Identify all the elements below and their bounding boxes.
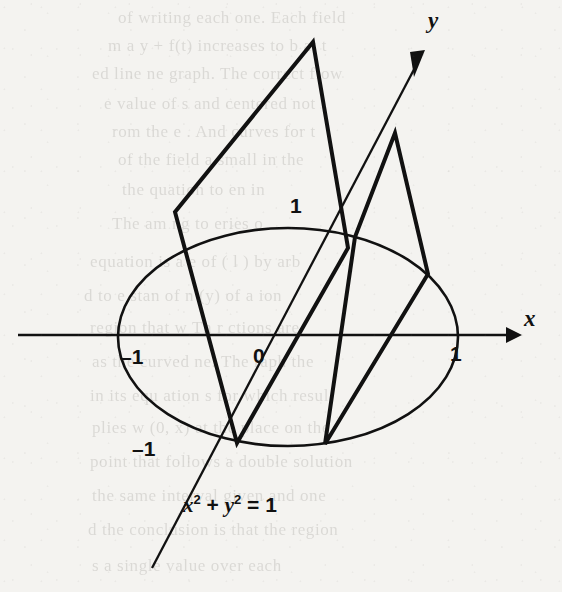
y-tick-positive-one-label: 1 [290, 194, 302, 218]
x-axis-label: x [524, 306, 536, 332]
origin-label: 0 [253, 344, 265, 368]
surface-patch-right [325, 133, 428, 444]
curve-equation-label: x2 + y2 = 1 [183, 492, 277, 518]
diagram-canvas [0, 0, 562, 592]
y-axis-label: y [428, 8, 438, 34]
x-tick-positive-one-label: 1 [450, 342, 462, 366]
figure-root: of writing each one. Each fieldm a y + f… [0, 0, 562, 592]
y-tick-negative-one-label: –1 [132, 437, 155, 461]
x-axis-arrowhead [506, 327, 522, 343]
x-axis [18, 327, 522, 343]
x-tick-negative-one-label: –1 [120, 345, 143, 369]
y-axis [152, 50, 425, 568]
unit-circle-ellipse [118, 228, 458, 446]
